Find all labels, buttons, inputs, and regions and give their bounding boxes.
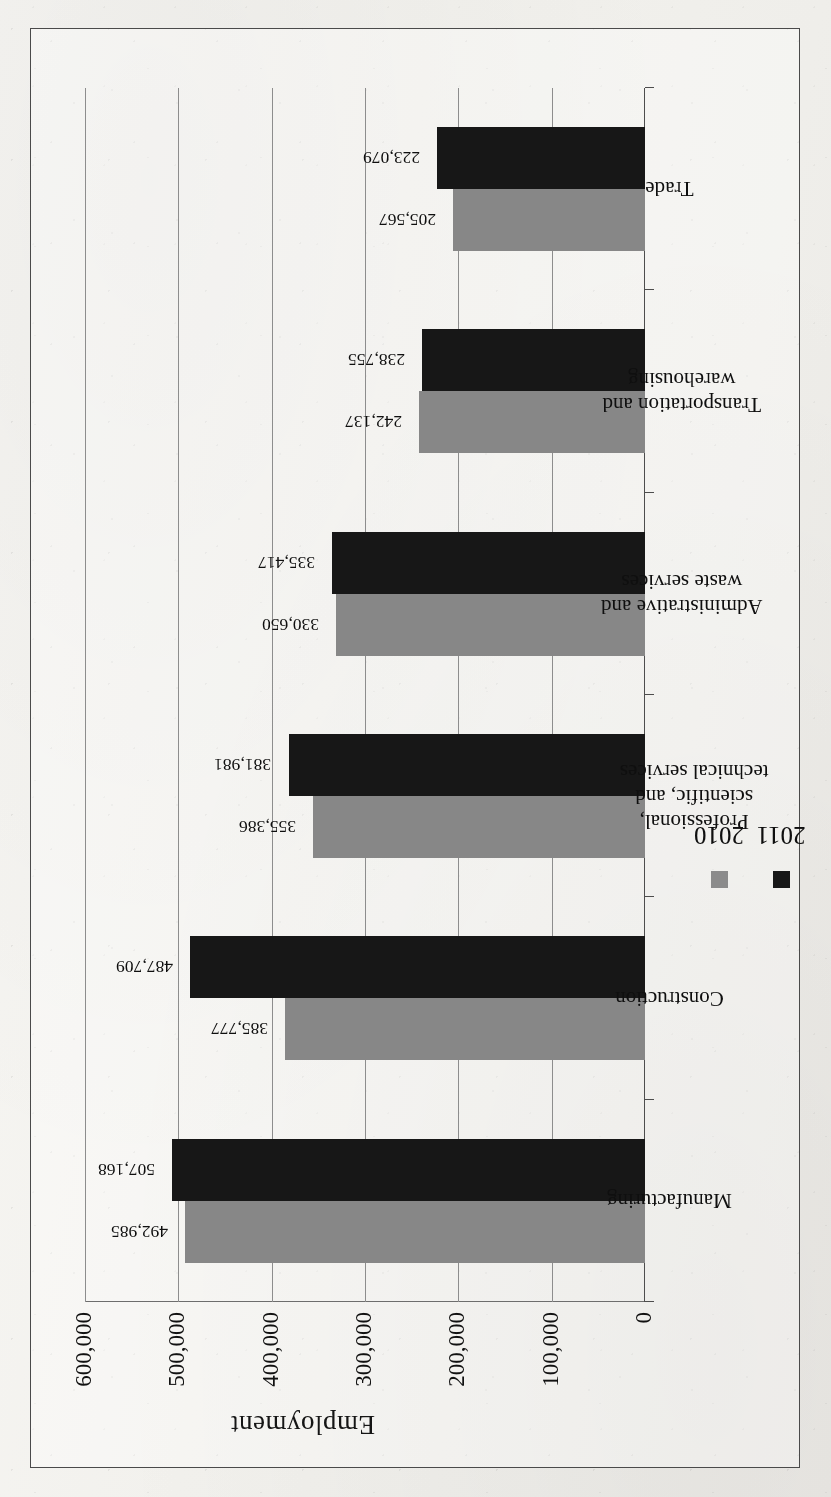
y-axis-tick-label: 100,000 [538,1312,564,1462]
bar-value-label: 355,386 [238,817,298,838]
plot-area: 600,000500,000400,000300,000200,000100,0… [85,88,645,1302]
bar-value-label: 205,567 [378,210,438,231]
y-axis-tick-label: 600,000 [71,1312,97,1462]
y-axis-tick-label: 400,000 [258,1312,284,1462]
y-axis-tick-label: 0 [631,1312,657,1462]
bar-2010-3 [336,594,645,656]
bar-2011-5 [437,127,645,189]
gridline [85,88,86,1302]
y-axis-tick-label: 200,000 [444,1312,470,1462]
category-label-line: waste services [601,569,763,594]
bar-value-label: 330,650 [261,614,321,635]
category-label: Professional,scientific, andtechnical se… [657,695,731,897]
bar-value-label: 492,985 [109,1221,169,1242]
x-axis-tick [645,1099,654,1100]
x-axis-tick [645,289,654,290]
gridline [272,88,273,1302]
category-label: Administrative andwaste services [657,493,707,695]
bar-2010-2 [313,796,645,858]
x-axis-tick [645,1301,654,1302]
legend-item-2011: 2011 [767,811,795,888]
y-axis-tick-label: 300,000 [351,1312,377,1462]
bar-value-label: 223,079 [361,148,421,169]
category-label-line: Transportation and [603,392,761,417]
bar-2010-1 [285,999,645,1061]
bar-value-label: 335,417 [256,552,316,573]
x-axis-tick [645,896,654,897]
x-axis-tick [645,492,654,493]
category-label: Construction [657,897,682,1099]
category-label-line: technical services [620,759,769,784]
category-label: Manufacturing [657,1100,682,1302]
gridline [178,88,179,1302]
y-axis-tick-label: 500,000 [164,1312,190,1462]
category-label-line: scientific, and [620,784,769,809]
bar-2011-1 [190,937,645,999]
x-axis-tick [645,87,654,88]
x-axis-tick [645,694,654,695]
category-label-line: Manufacturing [607,1188,732,1213]
bar-2010-5 [453,189,645,251]
bar-chart: Employment 600,000500,000400,000300,0002… [45,48,785,1448]
category-label-line: warehousing [603,367,761,392]
category-label: Transportation andwarehousing [657,290,707,492]
category-label: Trade [657,88,682,290]
chart-border-frame: Employment 600,000500,000400,000300,0002… [30,28,800,1468]
bar-value-label: 238,755 [347,350,407,371]
bar-value-label: 385,777 [209,1019,269,1040]
bar-value-label: 381,981 [213,755,273,776]
bar-2011-3 [332,532,645,594]
bar-value-label: 242,137 [344,412,404,433]
category-label-line: Trade [645,177,693,202]
bar-2011-2 [289,734,646,796]
gridline [458,88,459,1302]
bar-value-label: 507,168 [96,1159,156,1180]
bar-2011-0 [172,1139,645,1201]
gridline [552,88,553,1302]
category-label-line: Construction [615,986,724,1011]
x-axis-line [644,88,645,1302]
gridline [365,88,366,1302]
bar-value-label: 487,709 [114,957,174,978]
rotated-chart-wrapper: Employment 600,000500,000400,000300,0002… [45,48,785,1448]
category-label-line: Professional, [620,809,769,834]
bar-2010-0 [185,1201,645,1263]
category-label-line: Administrative and [601,594,763,619]
legend-swatch-2011-icon [773,871,790,888]
